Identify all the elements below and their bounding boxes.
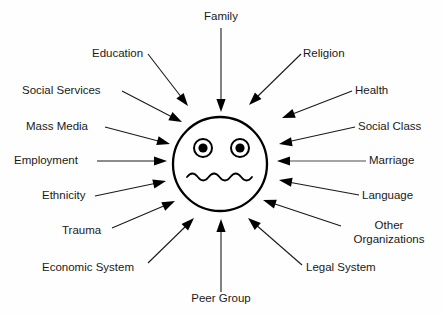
arrowhead-family — [216, 99, 225, 112]
influences-diagram: FamilyEducationReligionSocial ServicesHe… — [0, 0, 443, 315]
label-legal-system[interactable]: Legal System — [306, 261, 376, 273]
arrowhead-mass-media — [156, 136, 170, 145]
arrowhead-marriage — [277, 156, 290, 165]
label-ethnicity[interactable]: Ethnicity — [42, 189, 86, 201]
connector-legal-system — [255, 224, 302, 265]
label-family[interactable]: Family — [204, 10, 238, 22]
label-social-services[interactable]: Social Services — [22, 84, 101, 96]
individual-face-group[interactable] — [173, 117, 267, 211]
connector-trauma — [112, 205, 166, 228]
label-peer-group[interactable]: Peer Group — [191, 292, 250, 304]
arrowhead-employment — [154, 156, 167, 165]
connector-other-organizations — [272, 203, 341, 226]
arrowhead-social-class — [279, 137, 293, 146]
arrowhead-health — [282, 109, 296, 118]
eye-pupil-left — [198, 143, 207, 152]
label-religion[interactable]: Religion — [303, 47, 345, 59]
label-trauma[interactable]: Trauma — [62, 224, 102, 236]
diagram-canvas: FamilyEducationReligionSocial ServicesHe… — [0, 0, 443, 315]
arrowhead-legal-system — [248, 218, 261, 230]
label-marriage[interactable]: Marriage — [369, 154, 414, 166]
label-other-organizations[interactable]: Other — [375, 219, 404, 231]
label-language[interactable]: Language — [362, 189, 413, 201]
label-social-class[interactable]: Social Class — [358, 120, 422, 132]
connector-social-services — [122, 91, 174, 118]
connector-education — [148, 54, 182, 98]
connector-language — [288, 182, 359, 195]
connector-health — [290, 91, 352, 115]
eye-pupil-right — [235, 143, 244, 152]
connector-ethnicity — [95, 183, 157, 196]
connector-mass-media — [105, 127, 162, 142]
arrowhead-education — [176, 93, 188, 106]
connector-social-class — [287, 127, 355, 142]
arrowhead-peer-group — [216, 219, 225, 232]
arrowhead-trauma — [161, 201, 175, 211]
arrowhead-social-services — [168, 112, 182, 122]
connector-economic-system — [148, 225, 187, 263]
label-education[interactable]: Education — [92, 47, 143, 59]
label-economic-system[interactable]: Economic System — [42, 261, 134, 273]
label-other-organizations-line2[interactable]: Organizations — [354, 233, 425, 245]
label-employment[interactable]: Employment — [14, 154, 79, 166]
connector-religion — [256, 54, 301, 98]
arrowhead-language — [279, 178, 293, 187]
face-circle[interactable] — [173, 117, 267, 211]
arrowhead-ethnicity — [152, 179, 166, 188]
label-mass-media[interactable]: Mass Media — [26, 120, 89, 132]
label-health[interactable]: Health — [355, 84, 388, 96]
arrowhead-other-organizations — [263, 200, 277, 209]
